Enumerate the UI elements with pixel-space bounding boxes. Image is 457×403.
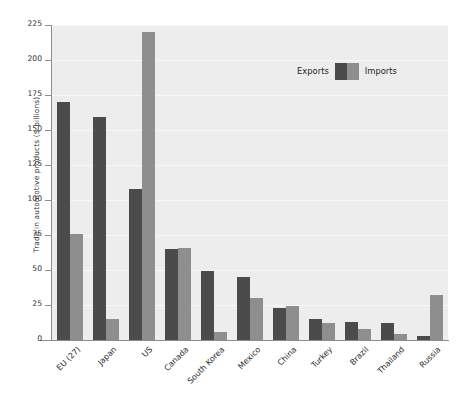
bar-exports — [201, 271, 214, 340]
y-axis-tick-label: 75 — [12, 230, 42, 238]
y-axis-tick-label: 25 — [12, 300, 42, 308]
y-axis-tick — [45, 200, 51, 201]
bar-exports — [57, 102, 70, 340]
y-axis-tick-label: 0 — [12, 335, 42, 343]
x-axis-label: Mexico — [236, 345, 262, 371]
x-axis-label: South Korea — [186, 345, 227, 386]
bar-exports — [237, 277, 250, 340]
bar-imports — [250, 298, 263, 340]
legend: Exports Imports — [297, 60, 397, 82]
y-axis-tick — [45, 25, 51, 26]
x-axis-label: Turkey — [310, 345, 335, 370]
y-axis-tick — [45, 340, 51, 341]
bar-imports — [106, 319, 119, 340]
y-axis-tick-label: 125 — [12, 160, 42, 168]
x-axis-labels: EU (27)JapanUSCanadaSouth KoreaMexicoChi… — [52, 341, 448, 403]
legend-swatches — [335, 63, 359, 80]
bar-imports — [214, 332, 227, 340]
y-axis-tick-label: 150 — [12, 125, 42, 133]
y-axis-tick-label: 175 — [12, 90, 42, 98]
bar-imports — [394, 334, 407, 340]
y-axis-tick-label: 200 — [12, 55, 42, 63]
y-axis-tick — [45, 270, 51, 271]
bar-group — [93, 25, 119, 340]
y-axis-tick — [45, 130, 51, 131]
bar-group — [417, 25, 443, 340]
bar-exports — [165, 249, 178, 340]
bar-exports — [345, 322, 358, 340]
legend-label-imports: Imports — [365, 66, 397, 76]
bar-group — [201, 25, 227, 340]
y-axis-tick-label: 225 — [12, 20, 42, 28]
bar-imports — [142, 32, 155, 340]
bar-group — [129, 25, 155, 340]
bar-imports — [322, 323, 335, 340]
bar-imports — [358, 329, 371, 340]
bar-exports — [381, 323, 394, 340]
x-axis-label: China — [276, 345, 299, 368]
bar-group — [57, 25, 83, 340]
bar-exports — [273, 308, 286, 340]
bar-chart: Trade in automotive products ($ billions… — [0, 0, 457, 403]
x-axis-label: Thailand — [376, 345, 407, 376]
x-axis-label: Canada — [162, 345, 190, 373]
x-axis-label: EU (27) — [55, 345, 82, 372]
bar-exports — [129, 189, 142, 340]
bar-group — [165, 25, 191, 340]
x-axis-label: Brazil — [348, 345, 370, 367]
legend-label-exports: Exports — [297, 66, 329, 76]
bar-exports — [309, 319, 322, 340]
y-axis-tick — [45, 235, 51, 236]
y-axis-tick — [45, 165, 51, 166]
x-axis-label: Japan — [96, 345, 118, 367]
bar-imports — [178, 248, 191, 340]
bar-exports — [417, 336, 430, 340]
bar-exports — [93, 117, 106, 340]
y-axis-tick-label: 50 — [12, 265, 42, 273]
bar-group — [273, 25, 299, 340]
bar-imports — [70, 234, 83, 340]
x-axis-label: Russia — [418, 345, 443, 370]
y-axis-tick — [45, 95, 51, 96]
bar-group — [237, 25, 263, 340]
y-axis-tick — [45, 305, 51, 306]
legend-swatch-imports-icon — [347, 63, 359, 80]
legend-swatch-exports-icon — [335, 63, 347, 80]
bar-imports — [430, 295, 443, 340]
y-axis-tick — [45, 60, 51, 61]
y-axis-tick-label: 100 — [12, 195, 42, 203]
x-axis-label: US — [140, 345, 154, 359]
bar-imports — [286, 306, 299, 340]
